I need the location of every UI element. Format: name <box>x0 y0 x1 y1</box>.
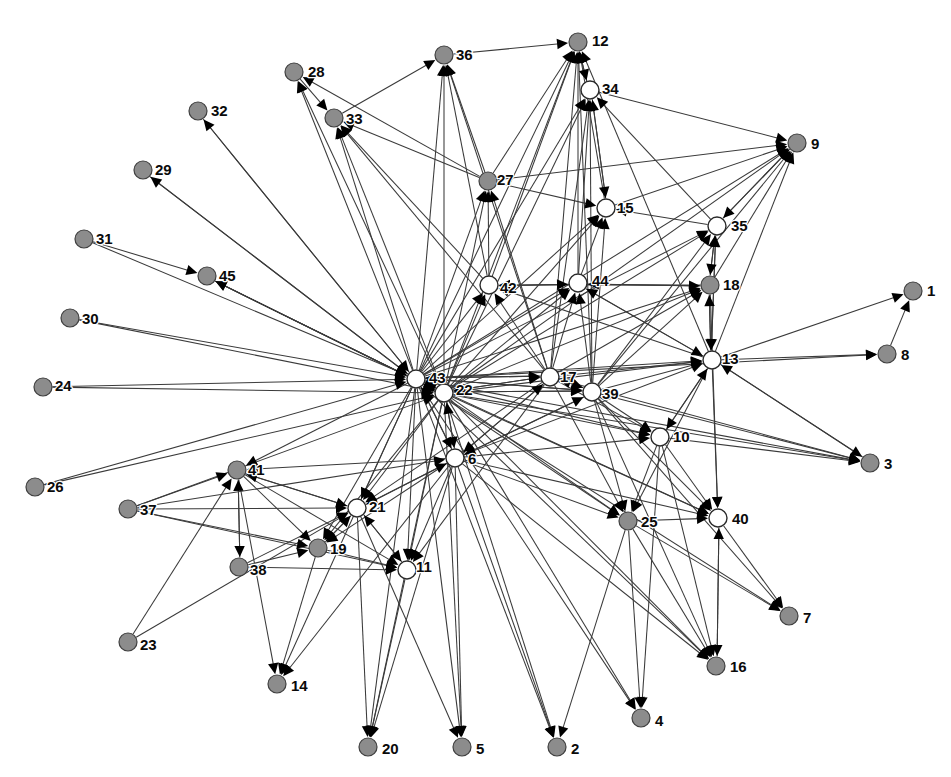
graph-node-2[interactable] <box>548 738 566 756</box>
edge-arrowhead <box>364 515 375 527</box>
graph-edge <box>53 379 398 386</box>
edge-arrowhead <box>215 472 227 482</box>
graph-node-16[interactable] <box>707 657 725 675</box>
graph-node-label-33: 33 <box>346 110 363 127</box>
graph-edge <box>372 579 405 729</box>
edge-arrowhead <box>626 697 636 709</box>
graph-node-label-6: 6 <box>468 450 476 467</box>
edge-arrowhead <box>531 384 543 395</box>
graph-node-9[interactable] <box>788 134 806 152</box>
graph-node-8[interactable] <box>878 345 896 363</box>
graph-node-14[interactable] <box>268 675 286 693</box>
edge-arrowhead <box>891 293 903 303</box>
graph-node-26[interactable] <box>26 478 44 496</box>
graph-node-3[interactable] <box>861 454 879 472</box>
graph-edge <box>44 384 398 484</box>
graph-edge <box>419 388 550 730</box>
graph-node-22[interactable] <box>435 384 453 402</box>
graph-node-label-18: 18 <box>723 276 740 293</box>
graph-node-5[interactable] <box>453 738 471 756</box>
graph-edge <box>138 508 339 509</box>
graph-edge <box>462 377 540 389</box>
graph-edge <box>421 387 631 703</box>
graph-node-44[interactable] <box>569 274 587 292</box>
graph-node-7[interactable] <box>780 607 798 625</box>
graph-edge <box>598 157 785 384</box>
graph-node-label-14: 14 <box>291 677 308 694</box>
graph-node-35[interactable] <box>708 217 726 235</box>
graph-edge <box>53 387 426 393</box>
graph-edge <box>450 72 485 172</box>
graph-node-29[interactable] <box>134 161 152 179</box>
graph-node-11[interactable] <box>398 561 416 579</box>
graph-node-37[interactable] <box>119 500 137 518</box>
graph-node-label-45: 45 <box>219 267 236 284</box>
graph-edge <box>447 402 551 729</box>
graph-edge <box>507 291 703 357</box>
graph-edge <box>563 530 626 729</box>
graph-node-label-43: 43 <box>429 369 446 386</box>
graph-node-label-35: 35 <box>731 217 748 234</box>
graph-edge <box>342 64 428 113</box>
edge-arrowhead <box>316 99 327 111</box>
graph-edge <box>253 383 407 461</box>
graph-node-4[interactable] <box>632 709 650 727</box>
graph-node-43[interactable] <box>407 370 425 388</box>
graph-node-42[interactable] <box>480 276 498 294</box>
graph-edge <box>93 243 399 372</box>
graph-edge <box>633 529 706 650</box>
graph-node-34[interactable] <box>581 81 599 99</box>
graph-node-6[interactable] <box>446 449 464 467</box>
graph-node-label-25: 25 <box>641 513 658 530</box>
graph-node-label-26: 26 <box>47 478 64 495</box>
graph-node-38[interactable] <box>230 558 248 576</box>
graph-node-label-29: 29 <box>155 161 172 178</box>
graph-node-label-40: 40 <box>732 510 749 527</box>
graph-edge <box>593 108 605 198</box>
graph-node-10[interactable] <box>651 428 669 446</box>
edge-arrowhead <box>446 64 456 76</box>
graph-node-40[interactable] <box>709 509 727 527</box>
graph-node-32[interactable] <box>189 102 207 120</box>
edge-arrowhead <box>557 39 568 49</box>
graph-node-20[interactable] <box>359 738 377 756</box>
graph-edge <box>724 526 779 601</box>
graph-edge <box>593 226 605 382</box>
graph-node-30[interactable] <box>61 309 79 327</box>
graph-edge <box>492 59 571 276</box>
graph-edge <box>351 125 479 177</box>
graph-node-19[interactable] <box>309 539 327 557</box>
edge-arrowhead <box>268 662 278 674</box>
graph-node-12[interactable] <box>569 33 587 51</box>
graph-edge <box>635 446 657 504</box>
graph-edge <box>462 464 701 655</box>
graph-node-label-3: 3 <box>884 455 892 472</box>
graph-node-36[interactable] <box>435 46 453 64</box>
graph-edge <box>629 530 640 699</box>
graph-node-1[interactable] <box>904 282 922 300</box>
graph-node-45[interactable] <box>198 267 216 285</box>
graph-node-13[interactable] <box>703 351 721 369</box>
graph-node-23[interactable] <box>119 633 137 651</box>
graph-node-label-20: 20 <box>382 740 399 757</box>
graph-node-21[interactable] <box>348 499 366 517</box>
network-graph-canvas: 1234567891011121314151617181920212223242… <box>0 0 951 777</box>
graph-node-31[interactable] <box>75 230 93 248</box>
edge-arrowhead <box>558 725 568 737</box>
graph-node-label-34: 34 <box>602 80 619 97</box>
graph-edge <box>493 58 568 174</box>
graph-node-25[interactable] <box>619 512 637 530</box>
graph-node-label-16: 16 <box>730 658 747 675</box>
graph-node-39[interactable] <box>583 383 601 401</box>
graph-node-41[interactable] <box>228 461 246 479</box>
graph-node-label-4: 4 <box>655 712 664 729</box>
graph-edge <box>721 297 896 357</box>
graph-node-18[interactable] <box>701 276 719 294</box>
graph-node-33[interactable] <box>325 109 343 127</box>
graph-node-27[interactable] <box>479 172 497 190</box>
graph-node-17[interactable] <box>541 368 559 386</box>
graph-node-15[interactable] <box>597 199 615 217</box>
graph-node-28[interactable] <box>285 63 303 81</box>
graph-node-24[interactable] <box>34 378 52 396</box>
graph-node-label-7: 7 <box>803 609 811 626</box>
